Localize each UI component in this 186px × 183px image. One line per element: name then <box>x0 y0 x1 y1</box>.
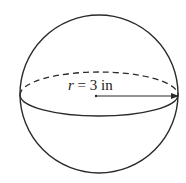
sphere-outline <box>20 15 178 173</box>
radius-unit: in <box>97 77 113 93</box>
radius-value: 3 <box>90 77 98 93</box>
radius-equals: = <box>74 77 90 93</box>
equator-front <box>20 95 178 116</box>
sphere-diagram: r = 3 in <box>0 0 186 183</box>
radius-label: r = 3 in <box>68 77 113 93</box>
